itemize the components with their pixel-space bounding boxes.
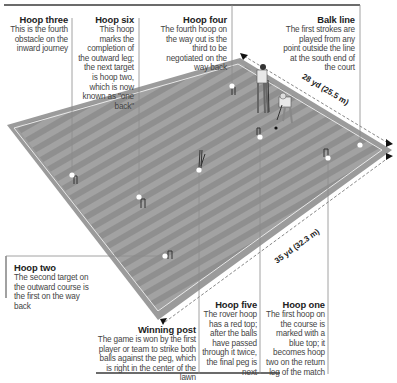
arrowhead-icon: [386, 139, 393, 147]
callout-title: Winning post: [96, 324, 196, 335]
callout-title: Hoop three: [6, 14, 68, 25]
callout-hoop-three: Hoop three This is the fourth obstacle o…: [6, 14, 68, 54]
arrowhead-icon: [386, 153, 393, 160]
balk-line-marker: [357, 142, 362, 147]
callout-title: Hoop two: [14, 262, 96, 273]
callout-body: The first hoop on the course is marked w…: [263, 310, 325, 377]
ball: [274, 126, 277, 129]
callout-hoop-four: Hoop four The fourth hoop on the way out…: [156, 14, 227, 73]
callout-hoop-one: Hoop one The first hoop on the course is…: [263, 299, 325, 377]
callout-hoop-six: Hoop six This hoop marks the completion …: [78, 14, 134, 111]
callout-title: Hoop six: [78, 14, 134, 25]
callout-body: The second target on the outward course …: [14, 273, 96, 311]
callout-title: Hoop one: [263, 299, 325, 310]
callout-title: Balk line: [282, 14, 355, 25]
callout-body: The fourth hoop on the way out is the th…: [156, 25, 227, 73]
callout-title: Hoop four: [156, 14, 227, 25]
callout-title: Hoop five: [202, 299, 257, 310]
callout-hoop-five: Hoop five The rover hoop has a red top; …: [202, 299, 257, 377]
callout-balk-line: Balk line The first strokes are played f…: [282, 14, 355, 73]
callout-body: The rover hoop has a red top; after the …: [202, 310, 257, 377]
callout-winning-post: Winning post The game is won by the firs…: [96, 324, 196, 383]
callout-hoop-two: Hoop two The second target on the outwar…: [14, 262, 96, 311]
callout-body: This hoop marks the completion of the ou…: [78, 25, 134, 111]
callout-body: The game is won by the first player or t…: [96, 335, 196, 383]
callout-body: The first strokes are played from any po…: [282, 25, 355, 73]
callout-body: This is the fourth obstacle on the inwar…: [6, 25, 68, 54]
